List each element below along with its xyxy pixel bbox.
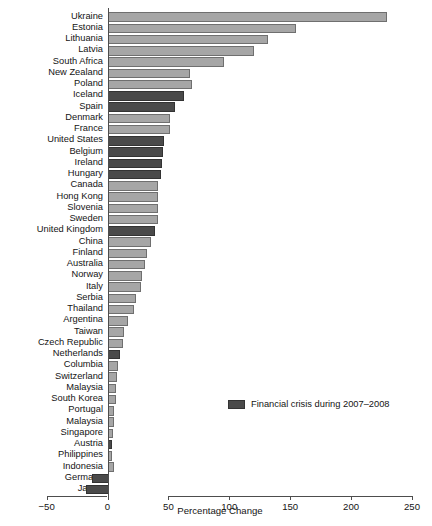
category-label: Ukraine	[0, 11, 103, 22]
bar-row: Estonia	[0, 22, 432, 33]
bar-normal	[108, 395, 116, 404]
bar-normal	[108, 339, 123, 348]
bar-chart: UkraineEstoniaLithuaniaLatviaSouth Afric…	[0, 0, 432, 526]
category-label: Australia	[0, 258, 103, 269]
category-label: Columbia	[0, 359, 103, 370]
category-label: Sweden	[0, 213, 103, 224]
bar-normal	[108, 294, 137, 303]
bar-row: Germany	[0, 472, 432, 483]
plot-area: UkraineEstoniaLithuaniaLatviaSouth Afric…	[0, 0, 432, 526]
bar-normal	[108, 462, 115, 471]
bar-normal	[108, 361, 119, 370]
category-label: Netherlands	[0, 348, 103, 359]
bar-normal	[108, 46, 255, 55]
bar-normal	[108, 282, 142, 291]
x-axis-tick	[351, 496, 352, 500]
category-label: Iceland	[0, 89, 103, 100]
bar-normal	[108, 114, 171, 123]
bar-row: Australia	[0, 258, 432, 269]
category-label: South Korea	[0, 393, 103, 404]
bar-row: Latvia	[0, 44, 432, 55]
bar-row: United Kingdom	[0, 224, 432, 235]
bar-row: Austria	[0, 438, 432, 449]
bar-row: Finland	[0, 247, 432, 258]
bar-row: Indonesia	[0, 461, 432, 472]
x-axis-tick-label: 200	[326, 502, 376, 512]
bar-row: Taiwan	[0, 326, 432, 337]
bar-row: Ukraine	[0, 11, 432, 22]
bar-normal	[108, 192, 159, 201]
bar-normal	[108, 181, 159, 190]
x-axis-tick-label: 250	[387, 502, 432, 512]
bar-row: Columbia	[0, 359, 432, 370]
category-label: Hong Kong	[0, 191, 103, 202]
category-label: Malaysia	[0, 382, 103, 393]
x-axis-line	[47, 496, 108, 497]
category-label: Taiwan	[0, 326, 103, 337]
bar-row: Ireland	[0, 157, 432, 168]
bar-row: Czech Republic	[0, 337, 432, 348]
category-label: Poland	[0, 78, 103, 89]
bar-row: Philippines	[0, 449, 432, 460]
bar-row: Hong Kong	[0, 191, 432, 202]
bar-normal	[108, 204, 159, 213]
category-label: Latvia	[0, 44, 103, 55]
bar-normal	[108, 406, 115, 415]
bar-normal	[108, 125, 171, 134]
category-label: United States	[0, 134, 103, 145]
category-label: Estonia	[0, 22, 103, 33]
bar-normal	[108, 316, 128, 325]
bar-crisis	[108, 147, 164, 156]
bar-row: Spain	[0, 101, 432, 112]
category-label: Philippines	[0, 449, 103, 460]
bar-normal	[108, 384, 116, 393]
x-axis-tick	[108, 496, 109, 500]
legend-label-crisis: Financial crisis during 2007–2008	[251, 399, 390, 409]
category-label: Norway	[0, 269, 103, 280]
category-label: Finland	[0, 247, 103, 258]
bar-row: Belgium	[0, 146, 432, 157]
bar-crisis	[108, 159, 162, 168]
zero-axis-line	[108, 8, 109, 496]
bar-normal	[108, 327, 125, 336]
x-axis-tick	[168, 496, 169, 500]
bar-row: Italy	[0, 281, 432, 292]
category-label: Germany	[0, 472, 103, 483]
bar-row: Lithuania	[0, 33, 432, 44]
bar-row: Singapore	[0, 427, 432, 438]
x-axis-tick	[290, 496, 291, 500]
category-label: Argentina	[0, 314, 103, 325]
bar-crisis	[108, 102, 176, 111]
bar-row: Japan	[0, 483, 432, 494]
x-axis-tick-label: 0	[83, 502, 133, 512]
category-label: France	[0, 123, 103, 134]
category-label: China	[0, 236, 103, 247]
bar-normal	[108, 249, 148, 258]
bar-row: France	[0, 123, 432, 134]
bar-crisis	[108, 350, 121, 359]
category-label: Austria	[0, 438, 103, 449]
category-label: Switzerland	[0, 371, 103, 382]
bar-normal	[108, 260, 145, 269]
bar-row: Canada	[0, 179, 432, 190]
bar-row: Sweden	[0, 213, 432, 224]
chart-legend: Financial crisis during 2007–2008	[228, 399, 390, 409]
bar-crisis	[108, 91, 184, 100]
category-label: Lithuania	[0, 33, 103, 44]
category-label: Denmark	[0, 112, 103, 123]
legend-swatch-crisis	[228, 400, 245, 409]
bar-row: Malaysia	[0, 416, 432, 427]
bar-crisis	[86, 485, 110, 494]
bar-normal	[108, 80, 193, 89]
bar-crisis	[108, 136, 165, 145]
bar-row: China	[0, 236, 432, 247]
x-axis-tick-label: −50	[22, 502, 72, 512]
bar-normal	[108, 12, 388, 21]
bar-normal	[108, 215, 159, 224]
x-axis-title: Percentage Change	[140, 505, 300, 516]
category-label: Singapore	[0, 427, 103, 438]
bar-row: Thailand	[0, 303, 432, 314]
bar-normal	[108, 69, 190, 78]
category-label: Slovenia	[0, 202, 103, 213]
category-label: Malaysia	[0, 416, 103, 427]
